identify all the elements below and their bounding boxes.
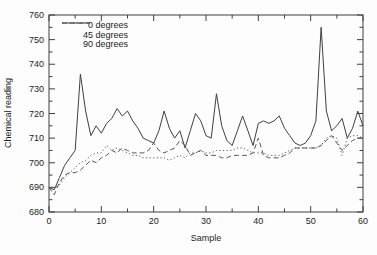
y-axis-title-wrap: Chemical reading xyxy=(2,15,14,212)
series-line-90-degrees xyxy=(49,136,363,188)
x-tick-label: 30 xyxy=(201,216,211,226)
y-tick-label: 680 xyxy=(29,207,44,217)
y-tick-label: 750 xyxy=(29,35,44,45)
y-tick-label: 710 xyxy=(29,133,44,143)
x-tick-label: 60 xyxy=(358,216,368,226)
x-tick-label: 0 xyxy=(46,216,51,226)
y-tick-label: 700 xyxy=(29,158,44,168)
x-tick-label: 10 xyxy=(96,216,106,226)
y-tick-label: 760 xyxy=(29,10,44,20)
legend: 0 degrees 45 degrees 90 degrees xyxy=(62,21,162,50)
legend-line-sample-solid xyxy=(134,21,162,31)
legend-line-sample-dashed xyxy=(134,31,162,41)
y-tick-label: 720 xyxy=(29,109,44,119)
x-tick-label: 20 xyxy=(149,216,159,226)
dotted-line-icon xyxy=(62,21,90,25)
legend-label-90-degrees: 90 degrees xyxy=(62,40,128,50)
series-line-45-degrees xyxy=(49,136,363,195)
chart-figure: 6806907007107207307407507600102030405060… xyxy=(0,0,377,255)
y-tick-label: 740 xyxy=(29,59,44,69)
y-axis-title: Chemical reading xyxy=(3,78,13,148)
x-tick-label: 50 xyxy=(306,216,316,226)
x-axis-title: Sample xyxy=(49,233,363,243)
legend-line-sample-dotted xyxy=(134,40,162,50)
chart-canvas: 6806907007107207307407507600102030405060 xyxy=(0,0,377,255)
series-line-0-degrees xyxy=(49,27,363,190)
y-tick-label: 690 xyxy=(29,182,44,192)
x-tick-label: 40 xyxy=(253,216,263,226)
y-tick-label: 730 xyxy=(29,84,44,94)
